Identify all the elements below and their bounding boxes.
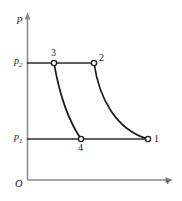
state-point-4-marker xyxy=(78,136,83,141)
state-point-2-marker xyxy=(91,60,96,65)
x-axis-label: v xyxy=(166,177,170,186)
state-label-3: 3 xyxy=(51,48,56,58)
y-axis-label: p xyxy=(17,13,23,24)
y-tick-sub-p1: 1 xyxy=(19,137,23,145)
process-curve-3-to-4 xyxy=(54,63,81,139)
y-tick-label-p1: p1 xyxy=(14,132,23,145)
origin-label: O xyxy=(15,179,23,190)
state-label-2: 2 xyxy=(99,53,104,63)
y-tick-sub-p2: 2 xyxy=(19,61,23,69)
y-axis-arrow-icon xyxy=(25,12,31,20)
state-point-3-marker xyxy=(51,60,56,65)
pv-diagram-figure: p v O p2 p1 3 2 4 1 xyxy=(0,0,182,201)
state-label-1: 1 xyxy=(154,134,159,144)
state-point-1-marker xyxy=(145,136,150,141)
plot-canvas xyxy=(0,0,182,201)
state-label-4: 4 xyxy=(78,143,83,153)
process-curve-2-to-1 xyxy=(94,63,148,139)
y-tick-label-p2: p2 xyxy=(14,56,23,69)
